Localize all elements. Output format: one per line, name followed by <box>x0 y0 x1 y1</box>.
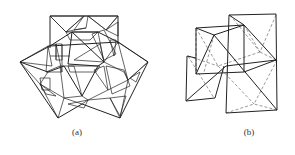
caption-a: (a) <box>62 127 92 137</box>
caption-b: (b) <box>234 127 264 137</box>
figure-panel-b: (b) <box>160 0 295 155</box>
polyhedra-wireframe-diagram <box>160 0 295 155</box>
figure-panel-a: (a) <box>0 0 160 155</box>
